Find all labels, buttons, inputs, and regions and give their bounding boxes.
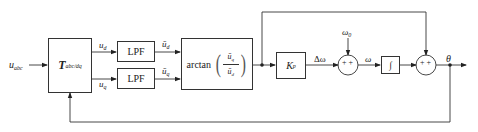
input-label: uabc (9, 60, 23, 71)
arctan-block: arctan ( ūq ūd ) (181, 38, 253, 90)
left-paren: ( (216, 51, 221, 77)
omega-label: ω (365, 55, 371, 64)
gain-block: Kp (276, 52, 306, 79)
denominator-subscript: d (231, 72, 234, 77)
ud-subscript: d (104, 45, 107, 51)
uq-bar-subscript: q (167, 71, 170, 77)
gain-subscript: p (293, 63, 296, 69)
lpf-q-block: LPF (117, 68, 155, 89)
right-paren: ) (240, 51, 245, 77)
integrator-block: ∫ (381, 56, 400, 74)
ud-bar-subscript: d (167, 44, 170, 50)
transform-symbol: T (58, 58, 65, 73)
input-subscript: abc (14, 65, 23, 71)
delta-omega-label: Δω (314, 55, 326, 64)
omega0-subscript: 0 (348, 32, 351, 38)
uq-bar-label: ūq (162, 67, 170, 77)
uq-subscript: q (104, 84, 107, 90)
ud-label: ud (99, 41, 107, 51)
gain-symbol: K (286, 60, 293, 71)
fraction-bar (223, 64, 239, 65)
branch-point-dot (260, 63, 264, 67)
transform-block: Tabc/dq (48, 38, 92, 93)
lpf-d-block: LPF (117, 41, 155, 62)
ud-bar-label: ūd (162, 40, 170, 50)
numerator-subscript: q (231, 57, 234, 62)
sum1-signs: + + (342, 59, 353, 67)
fraction-numerator: ūq (227, 52, 234, 62)
sum2-signs: + + (420, 59, 431, 67)
arctan-func-label: arctan (187, 59, 211, 70)
omega0-label: ω0 (342, 28, 351, 38)
arctan-fraction: ūq ūd (223, 52, 239, 77)
uq-label: uq (99, 80, 107, 90)
fraction-denominator: ūd (227, 67, 234, 77)
theta-label: θ (446, 54, 451, 64)
transform-subscript: abc/dq (66, 63, 82, 69)
